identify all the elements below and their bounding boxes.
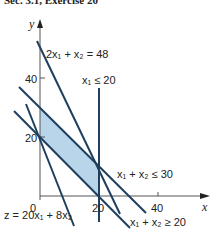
x-axis-label: x bbox=[201, 200, 208, 214]
y-tick-label-40: 40 bbox=[25, 73, 37, 85]
x-tick-label-40: 40 bbox=[151, 202, 163, 214]
label-2x1-plus-x2-eq-48: 2x₁ + x₂ = 48 bbox=[46, 48, 108, 60]
label-x1-le-20: x₁ ≤ 20 bbox=[82, 74, 116, 86]
y-axis-label: y bbox=[28, 17, 35, 31]
y-tick-label-20: 20 bbox=[25, 132, 37, 144]
label-x1-plus-x2-ge-20: x₁ + x₂ ≥ 20 bbox=[130, 216, 186, 228]
line-x1-plus-x2-le-30 bbox=[19, 87, 146, 213]
lp-diagram: y x 0 20 40 20 40 2x₁ + x₂ = 48 x₁ ≤ 20 … bbox=[0, 0, 224, 235]
label-objective: z = 20x₁ + 8x₂ bbox=[4, 209, 72, 221]
y-axis-arrow-icon bbox=[37, 19, 43, 28]
x-axis-arrow-icon bbox=[200, 193, 210, 199]
label-x1-plus-x2-le-30: x₁ + x₂ ≤ 30 bbox=[117, 168, 173, 180]
x-tick-label-20: 20 bbox=[92, 202, 104, 214]
